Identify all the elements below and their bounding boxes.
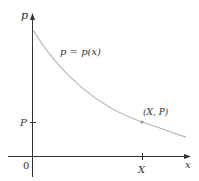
point-label: (X, P)	[143, 107, 169, 117]
x-tick-label: X	[137, 164, 146, 175]
y-axis-arrow-icon	[30, 13, 35, 20]
y-axis-label: p	[21, 9, 28, 22]
curve-label: p = p(x)	[60, 46, 101, 57]
x-axis-label: x	[185, 159, 191, 170]
demand-curve-diagram: p x 0 p = p(x) (X, P) X P	[0, 0, 199, 181]
origin-label: 0	[23, 160, 29, 171]
point-XP	[140, 120, 143, 123]
y-tick-label: P	[19, 117, 27, 128]
demand-curve	[33, 30, 186, 137]
